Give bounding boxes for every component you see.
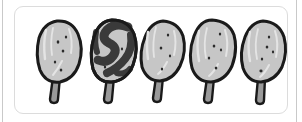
popsicle-body-2 bbox=[91, 20, 136, 82]
illustration-panel bbox=[14, 6, 288, 114]
popsicle-plain-5 bbox=[237, 15, 291, 107]
popsicle-plain-1 bbox=[33, 15, 87, 107]
popsicle-swirl bbox=[87, 15, 141, 107]
popsicle-row bbox=[15, 7, 289, 115]
popsicle-body-4 bbox=[190, 20, 235, 82]
popsicle-body-1 bbox=[37, 21, 81, 82]
page-rule-right bbox=[296, 0, 297, 122]
popsicle-plain-3 bbox=[137, 15, 191, 107]
popsicle-body-3 bbox=[141, 21, 184, 81]
popsicle-plain-4 bbox=[187, 15, 241, 107]
page-rule-left bbox=[2, 0, 3, 122]
screenshot-root bbox=[0, 0, 302, 122]
popsicle-body-5 bbox=[241, 21, 285, 82]
